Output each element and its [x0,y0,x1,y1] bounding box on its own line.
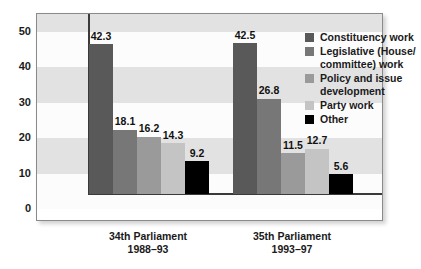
group-label-line1: 34th Parliament [88,230,208,243]
plot-frame: 42.342.518.126.816.211.514.312.79.25.6 C… [36,13,383,221]
legend-swatch-icon [305,101,314,110]
bar [113,130,137,194]
bar [137,137,161,194]
bar-value-label: 42.3 [83,31,119,42]
legend-swatch-icon [305,74,314,83]
y-axis-tick-label: 50 [1,26,31,37]
legend-item[interactable]: Party work [305,99,421,111]
y-axis-tick-label: 20 [1,132,31,143]
bar [305,149,329,194]
legend-item-label: Policy and issuedevelopment [320,72,402,97]
bar-value-label: 14.3 [155,130,191,141]
bar-value-label: 9.2 [179,148,215,159]
bar-value-label: 5.6 [323,161,359,172]
group-label-line2: 1988–93 [88,243,208,256]
bar [185,161,209,194]
bar [329,174,353,194]
bar-value-label: 12.7 [299,135,335,146]
bar [281,153,305,194]
legend-item-label: Other [320,113,348,125]
legend-item-label: Legislative (House/committee) work [320,45,416,70]
group-label-line1: 35th Parliament [232,230,352,243]
y-axis-tick-label: 30 [1,97,31,108]
legend-item[interactable]: Constituency work [305,31,421,43]
bar-value-label: 26.8 [251,85,287,96]
group-label-line2: 1993–97 [232,243,352,256]
y-axis-tick-label: 40 [1,61,31,72]
y-axis-tick-label: 0 [1,203,31,214]
legend-swatch-icon [305,47,314,56]
bar [233,43,257,194]
legend-item[interactable]: Legislative (House/committee) work [305,45,421,70]
x-axis-group-label: 34th Parliament1988–93 [88,230,208,256]
legend-item[interactable]: Policy and issuedevelopment [305,72,421,97]
y-axis-tick-label: 10 [1,168,31,179]
legend: Constituency workLegislative (House/comm… [305,31,421,128]
legend-swatch-icon [305,115,314,124]
legend-item-label: Constituency work [320,31,414,43]
y-axis-tick-labels: 01020304050 [0,13,31,221]
bar-value-label: 42.5 [227,30,263,41]
legend-item[interactable]: Other [305,113,421,125]
legend-swatch-icon [305,33,314,42]
x-axis-group-label: 35th Parliament1993–97 [232,230,352,256]
legend-item-label: Party work [320,99,374,111]
